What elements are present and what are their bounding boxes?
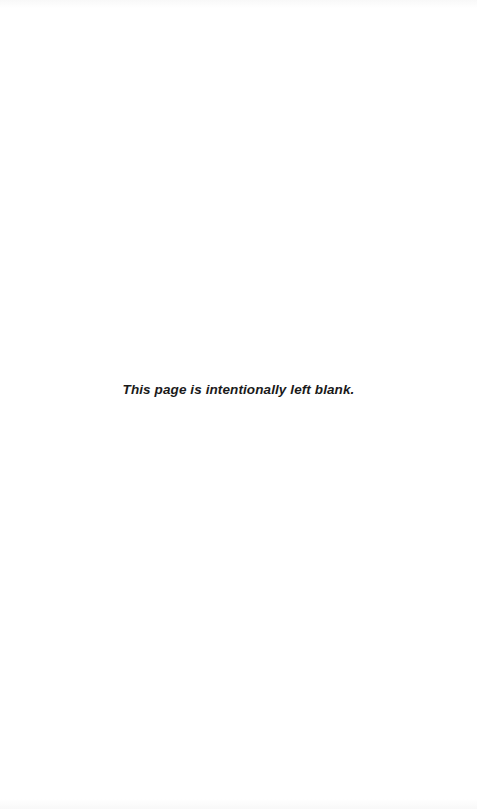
scan-edge-bottom bbox=[0, 799, 477, 809]
document-page: This page is intentionally left blank. bbox=[0, 0, 477, 809]
scan-edge-top bbox=[0, 0, 477, 8]
blank-page-notice: This page is intentionally left blank. bbox=[0, 381, 477, 399]
